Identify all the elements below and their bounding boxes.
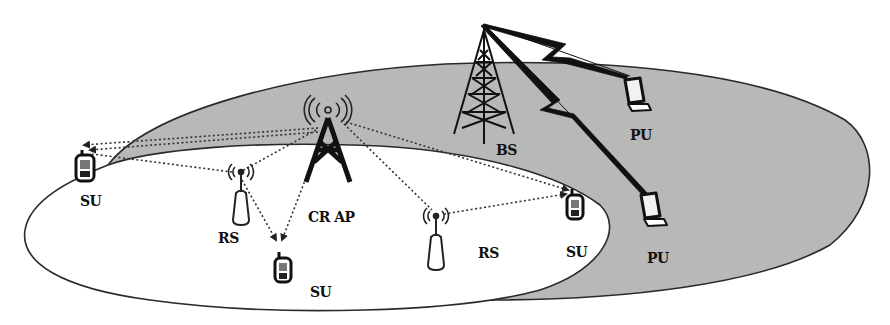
pu-top-label: PU [630, 127, 652, 143]
bs-label: BS [496, 142, 517, 158]
rs-right-label: RS [478, 245, 499, 261]
secondary-user-phone-icon [76, 150, 94, 181]
su-right-label: SU [566, 244, 588, 260]
su-left-label: SU [80, 193, 102, 209]
cr-ap-label: CR AP [308, 209, 356, 225]
network-diagram: BS CR AP RS [0, 0, 890, 325]
rs-left-label: RS [218, 230, 239, 246]
pu-bottom-label: PU [647, 250, 669, 266]
su-bottom-label: SU [310, 284, 332, 300]
